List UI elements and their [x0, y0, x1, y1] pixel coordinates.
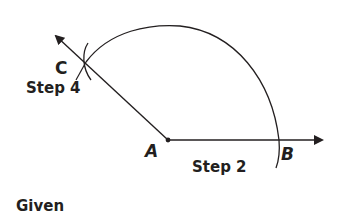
point-b-label: B [281, 144, 294, 164]
given-caption: Given [16, 197, 64, 214]
compass-arc-large [86, 26, 279, 168]
point-a-label: A [143, 141, 158, 161]
step-4-label: Step 4 [26, 79, 81, 97]
step-2-label: Step 2 [192, 158, 247, 176]
point-c-label: C [55, 58, 67, 78]
arc-cross-stroke [76, 62, 86, 80]
compass-arc-small [84, 43, 91, 80]
angle-construction-diagram: C Step 4 A Step 2 B Given [0, 0, 348, 214]
point-a-dot [166, 138, 171, 143]
